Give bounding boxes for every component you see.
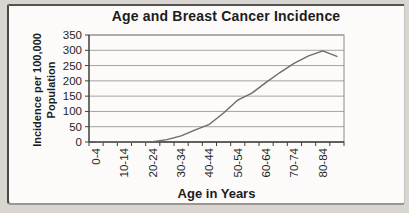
y-tick-label: 250 (63, 60, 82, 72)
y-tick-label: 350 (63, 29, 82, 41)
y-tick-label: 200 (63, 75, 82, 87)
x-tick-label: 80-84 (317, 147, 329, 177)
y-tick-label: 100 (63, 105, 82, 117)
y-tick-label: 150 (63, 90, 82, 102)
x-tick-label: 10-14 (118, 147, 130, 177)
x-tick-label: 70-74 (288, 147, 300, 177)
y-tick-label: 50 (69, 121, 82, 133)
plot-border (89, 35, 344, 142)
y-tick-label: 300 (63, 44, 82, 56)
x-tick-label: 0-4 (90, 147, 102, 164)
x-tick-label: 50-54 (232, 147, 244, 177)
x-tick-label: 20-24 (147, 147, 159, 177)
x-tick-label: 30-34 (175, 147, 187, 177)
x-axis-title: Age in Years (89, 186, 344, 201)
plot-area: 0501001502002503003500-410-1420-2430-344… (0, 0, 409, 213)
y-tick-label: 0 (76, 136, 82, 148)
x-tick-label: 60-64 (260, 147, 272, 177)
x-tick-label: 40-44 (203, 147, 215, 177)
